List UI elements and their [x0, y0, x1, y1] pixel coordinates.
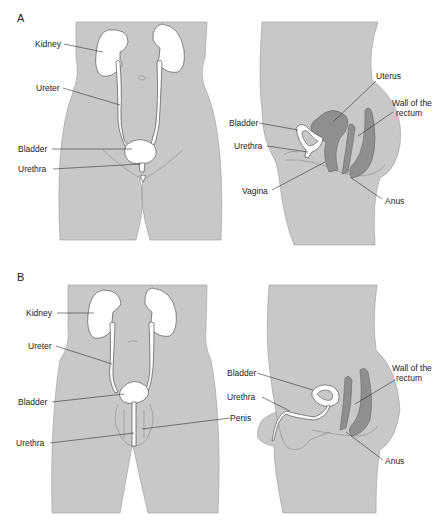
label-anus: Anus [385, 456, 404, 466]
label-penis: Penis [230, 413, 251, 423]
label-side-urethra: Urethra [227, 392, 256, 402]
label-wall-of-the: Wall of the [392, 363, 432, 373]
label-side-bladder: Bladder [229, 118, 258, 128]
label-rectum: rectum [396, 108, 422, 118]
label-urethra: Urethra [16, 438, 45, 448]
label-rectum: rectum [396, 373, 422, 383]
urinary-system-diagram: A Kidney Ureter Bladder Urethra Uterus W… [0, 0, 445, 527]
panel-a-bladder [125, 140, 157, 165]
label-wall-of-the: Wall of the [392, 98, 432, 108]
panel-label-b: B [17, 271, 24, 283]
label-bladder: Bladder [18, 397, 47, 407]
label-anus: Anus [385, 196, 404, 206]
label-ureter: Ureter [28, 341, 52, 351]
label-vagina: Vagina [242, 186, 268, 196]
label-kidney: Kidney [35, 39, 62, 49]
label-side-bladder: Bladder [227, 368, 256, 378]
panel-b-urethra [132, 402, 136, 446]
label-urethra: Urethra [18, 164, 47, 174]
label-ureter: Ureter [36, 83, 60, 93]
label-uterus: Uterus [376, 71, 401, 81]
panel-label-a: A [17, 12, 25, 24]
label-bladder: Bladder [18, 144, 47, 154]
panel-a-female-front-torso [59, 22, 222, 240]
label-kidney: Kidney [26, 308, 53, 318]
label-side-urethra: Urethra [234, 141, 263, 151]
